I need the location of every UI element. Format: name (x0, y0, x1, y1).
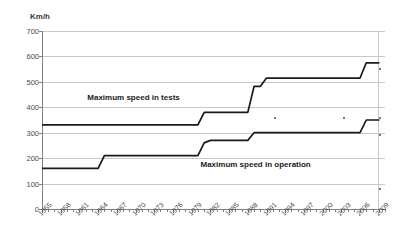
y-tick-label: 100 (9, 180, 39, 187)
x-axis-tick-labels: 1955195819611964196719701973197619791982… (0, 212, 410, 250)
stray-marker (343, 117, 345, 119)
y-tick-label: 400 (9, 104, 39, 111)
stray-marker (274, 117, 276, 119)
stray-marker (379, 68, 381, 70)
series-label-tests: Maximum speed in tests (87, 93, 179, 102)
speed-chart: Km/h 700 600 500 400 300 200 100 0 (0, 0, 410, 250)
y-tick-label: 600 (9, 53, 39, 60)
y-tick-label: 300 (9, 129, 39, 136)
y-tick-label: 700 (9, 28, 39, 35)
stray-marker (379, 117, 381, 119)
stray-marker (379, 188, 381, 190)
y-tick-label: 500 (9, 78, 39, 85)
series-label-operation: Maximum speed in operation (201, 160, 311, 169)
data-series-layer (42, 31, 385, 209)
y-axis-unit-label: Km/h (30, 12, 50, 21)
stray-marker (379, 134, 381, 136)
y-tick-label: 200 (9, 155, 39, 162)
y-axis-tick-labels: 700 600 500 400 300 200 100 0 (6, 31, 39, 209)
